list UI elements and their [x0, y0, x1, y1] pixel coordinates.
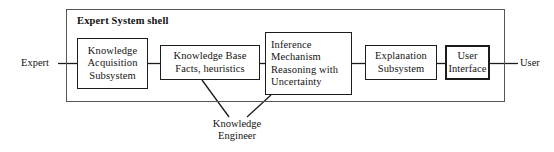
node-knowledge-acquisition-subsystem[interactable]: Knowledge Acquisition Subsystem [77, 38, 148, 89]
node-explanation-subsystem[interactable]: Explanation Subsystem [365, 45, 437, 80]
node-line: Knowledge Base [174, 50, 247, 62]
node-line: Inference [271, 39, 312, 51]
node-line: Facts, heuristics [175, 63, 244, 75]
annotation-line: Knowledge [187, 118, 287, 130]
node-line: Acquisition [87, 57, 137, 69]
node-line: Uncertainty [271, 76, 322, 88]
node-knowledge-base[interactable]: Knowledge Base Facts, heuristics [160, 45, 260, 80]
node-line: Mechanism [271, 51, 321, 63]
node-inference-mechanism[interactable]: Inference Mechanism Reasoning with Uncer… [265, 32, 352, 95]
actor-user-label: User [520, 57, 540, 69]
node-line: User [457, 50, 477, 62]
node-line: Subsystem [378, 63, 424, 75]
node-line: Knowledge [88, 45, 137, 57]
node-line: Reasoning with [271, 64, 338, 76]
expert-system-shell-title: Expert System shell [77, 15, 169, 27]
annotation-line: Engineer [187, 130, 287, 142]
expert-system-architecture-diagram: Expert System shell Expert User Knowledg… [0, 0, 554, 152]
node-line: Interface [448, 63, 486, 75]
node-line: Subsystem [89, 70, 135, 82]
node-user-interface[interactable]: User Interface [445, 45, 490, 80]
actor-expert-label: Expert [21, 57, 49, 69]
annotation-knowledge-engineer: Knowledge Engineer [187, 118, 287, 142]
node-line: Explanation [375, 50, 427, 62]
